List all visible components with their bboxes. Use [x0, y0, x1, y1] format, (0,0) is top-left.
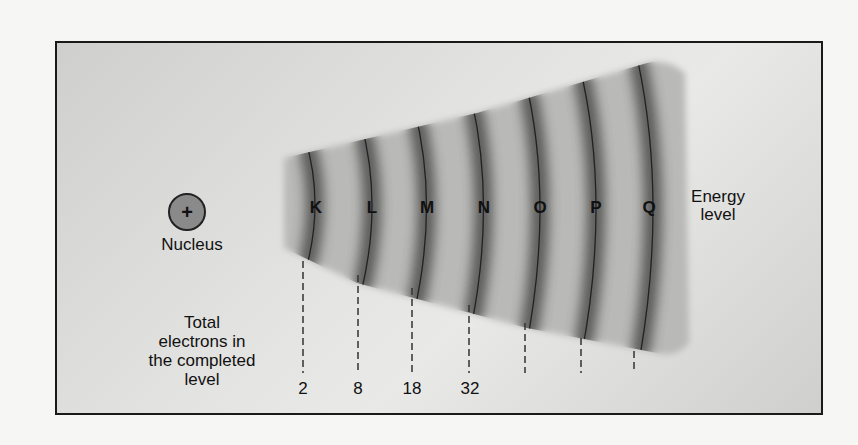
energy-level-label-line: level	[683, 206, 753, 224]
total-label-line: level	[137, 370, 267, 389]
nucleus-circle: +	[168, 193, 206, 231]
total-label-line: the completed	[137, 351, 267, 370]
level-letter-o: O	[528, 198, 552, 218]
level-letter-l: L	[360, 198, 384, 218]
level-letter-m: M	[415, 198, 439, 218]
electron-count-k: 2	[288, 379, 318, 399]
level-letter-n: N	[472, 198, 496, 218]
level-letter-p: P	[584, 198, 608, 218]
electron-count-l: 8	[343, 379, 373, 399]
diagram-frame: + Nucleus K L M N O P Q Energy level Tot…	[55, 41, 823, 415]
plus-icon: +	[170, 195, 204, 229]
total-label-line: Total	[137, 313, 267, 332]
level-letter-k: K	[304, 198, 328, 218]
electron-count-n: 32	[455, 379, 485, 399]
energy-level-label: Energy level	[683, 188, 753, 224]
electron-count-m: 18	[397, 379, 427, 399]
level-letter-q: Q	[637, 198, 661, 218]
nucleus-label: Nucleus	[147, 236, 237, 254]
total-electrons-label: Total electrons in the completed level	[137, 313, 267, 389]
energy-level-label-line: Energy	[683, 188, 753, 206]
total-label-line: electrons in	[137, 332, 267, 351]
